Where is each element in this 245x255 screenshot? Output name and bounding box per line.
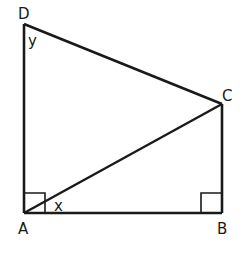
vertex-label-B: B xyxy=(217,220,227,238)
angle-label-x: x xyxy=(54,197,63,215)
angle-label-y: y xyxy=(28,32,37,50)
vertex-label-D: D xyxy=(18,5,30,23)
geometry-diagram: D A B C y x xyxy=(0,0,245,255)
vertex-label-A: A xyxy=(18,220,29,238)
segment-CD xyxy=(24,24,222,104)
vertex-label-C: C xyxy=(222,87,232,105)
right-angle-marker-B xyxy=(201,193,222,213)
